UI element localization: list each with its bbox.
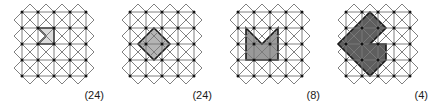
figure-panel: (4) [324, 0, 432, 102]
count-label: (24) [192, 89, 212, 101]
lattice-diagram [216, 0, 324, 92]
figure-panel: (24) [0, 0, 108, 102]
count-label: (8) [307, 89, 320, 101]
figure-panel: (24) [108, 0, 216, 102]
lattice-diagram [324, 0, 432, 92]
count-label: (24) [84, 89, 104, 101]
figure-panel: (8) [216, 0, 324, 102]
lattice-diagram [0, 0, 108, 92]
figure-row: (24)(24)(8)(4) [0, 0, 432, 102]
lattice-diagram [108, 0, 216, 92]
count-label: (4) [415, 89, 428, 101]
